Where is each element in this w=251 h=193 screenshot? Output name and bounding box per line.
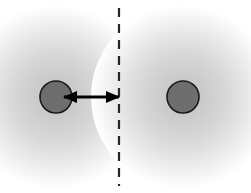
right-particle-circle: [167, 81, 199, 113]
diagram-figure: [0, 0, 251, 193]
diagram-canvas: [0, 0, 251, 193]
